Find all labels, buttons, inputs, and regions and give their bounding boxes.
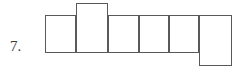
net-cell-rect-bottom-tab [200, 16, 232, 66]
net-cell-rect-top-tab [77, 4, 108, 53]
figure-container: 7. [0, 0, 244, 73]
net-cell-square-left [46, 16, 76, 53]
net-cell-group [46, 4, 232, 66]
net-cell-square-four [170, 16, 199, 53]
net-diagram [0, 0, 244, 73]
net-cell-square-three [140, 16, 169, 53]
net-cell-square-two [109, 16, 139, 53]
